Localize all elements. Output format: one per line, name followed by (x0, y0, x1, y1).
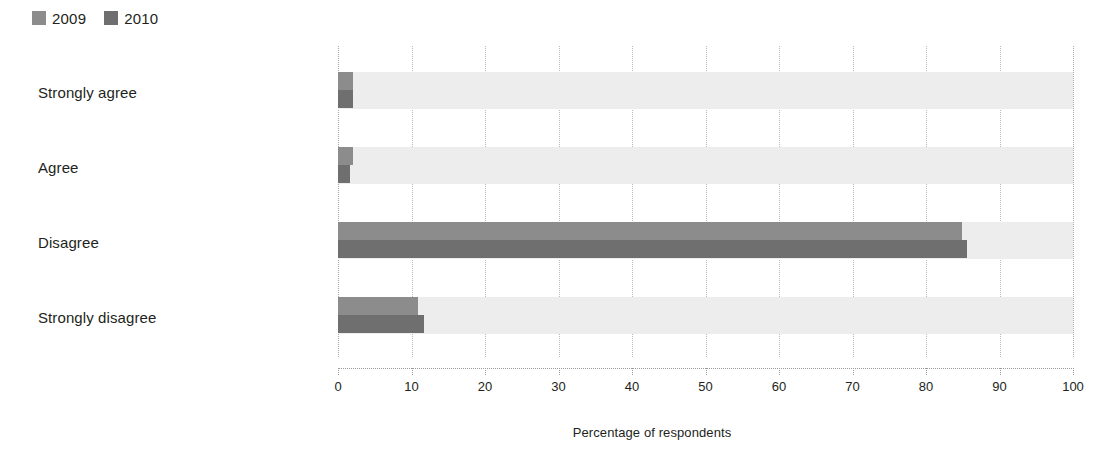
category-label-strongly-agree: Strongly agree (38, 84, 137, 101)
bar-row-agree (338, 147, 1073, 184)
bar-disagree-2009[interactable] (338, 222, 962, 240)
bar-row-strongly-disagree (338, 297, 1073, 334)
bar-row-strongly-agree (338, 72, 1073, 109)
x-tick-label-50: 50 (698, 380, 712, 394)
x-axis-title: Percentage of respondents (0, 425, 1112, 440)
gridline-100 (1073, 46, 1075, 357)
row-background-band (338, 297, 1073, 334)
x-tick-20 (485, 368, 487, 375)
bar-disagree-2010[interactable] (338, 240, 967, 258)
x-tick-label-100: 100 (1062, 380, 1084, 394)
bar-agree-2010[interactable] (338, 165, 350, 183)
bar-strongly-agree-2009[interactable] (338, 72, 353, 90)
bar-row-disagree (338, 222, 1073, 259)
x-tick-30 (559, 368, 561, 375)
x-tick-10 (412, 368, 414, 375)
x-axis-title-text: Percentage of respondents (573, 425, 732, 440)
x-tick-40 (632, 368, 634, 375)
x-tick-100 (1073, 368, 1075, 375)
x-tick-label-0: 0 (334, 380, 341, 394)
bar-strongly-agree-2010[interactable] (338, 90, 353, 108)
x-tick-50 (706, 368, 708, 375)
x-tick-label-10: 10 (404, 380, 418, 394)
bar-strongly-disagree-2010[interactable] (338, 315, 424, 333)
row-background-band (338, 147, 1073, 184)
x-tick-label-60: 60 (772, 380, 786, 394)
x-tick-label-40: 40 (625, 380, 639, 394)
plot-area (338, 46, 1073, 357)
x-tick-90 (1000, 368, 1002, 375)
bar-chart: Strongly agree Agree Disagree Strongly d… (0, 0, 1112, 455)
bar-strongly-disagree-2009[interactable] (338, 297, 418, 315)
x-tick-label-80: 80 (919, 380, 933, 394)
x-tick-label-20: 20 (478, 380, 492, 394)
x-tick-label-90: 90 (992, 380, 1006, 394)
bar-agree-2009[interactable] (338, 147, 353, 165)
row-background-band (338, 72, 1073, 109)
category-label-strongly-disagree: Strongly disagree (38, 309, 156, 326)
x-tick-0 (338, 368, 340, 375)
x-tick-80 (926, 368, 928, 375)
category-label-disagree: Disagree (38, 234, 99, 251)
x-tick-70 (853, 368, 855, 375)
x-tick-label-30: 30 (551, 380, 565, 394)
x-tick-label-70: 70 (845, 380, 859, 394)
category-label-agree: Agree (38, 159, 79, 176)
x-tick-60 (779, 368, 781, 375)
